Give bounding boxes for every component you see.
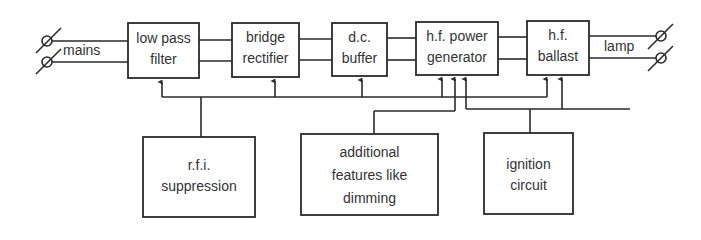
mains-label: mains (63, 42, 100, 58)
additional-features-label: additional features like dimming (301, 141, 438, 210)
rfi-control-bus (162, 79, 547, 137)
hf-ballast-label: h.f. ballast (527, 25, 589, 67)
additional-features-line1: additional (301, 141, 438, 164)
dc-buffer-line2: buffer (332, 48, 387, 69)
hf-ballast-line1: h.f. (527, 25, 589, 46)
dc-buffer-line1: d.c. (332, 27, 387, 48)
additional-features-line2: features like (301, 164, 438, 187)
rfi-suppression-label: r.f.i. suppression (143, 155, 255, 197)
lamp-label: lamp (604, 38, 634, 54)
ignition-circuit-label: ignition circuit (484, 154, 573, 196)
ignition-circuit-line2: circuit (484, 175, 573, 196)
additional-features-line3: dimming (301, 187, 438, 210)
hf-power-generator-label: h.f. power generator (416, 26, 498, 68)
dc-buffer-label: d.c. buffer (332, 27, 387, 69)
bridge-rectifier-line2: rectifier (232, 48, 299, 69)
low-pass-filter-label: low pass filter (128, 28, 199, 70)
mains-terminal-icon (36, 28, 61, 74)
bridge-rectifier-label: bridge rectifier (232, 27, 299, 69)
hf-power-generator-line1: h.f. power (416, 26, 498, 47)
rfi-suppression-line1: r.f.i. (143, 155, 255, 176)
low-pass-filter-line2: filter (128, 49, 199, 70)
ignition-circuit-line1: ignition (484, 154, 573, 175)
ignition-control-line (466, 79, 630, 133)
rfi-suppression-line2: suppression (143, 176, 255, 197)
hf-power-generator-line2: generator (416, 47, 498, 68)
hf-ballast-line2: ballast (527, 46, 589, 67)
low-pass-filter-line1: low pass (128, 28, 199, 49)
bridge-rectifier-line1: bridge (232, 27, 299, 48)
lamp-terminal-icon (648, 24, 673, 71)
dimming-control-line (374, 79, 455, 134)
